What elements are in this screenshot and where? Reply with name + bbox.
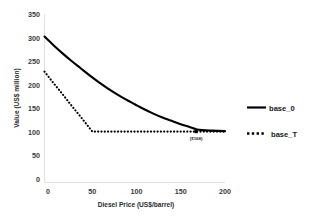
y-tick-label: 150 [28,104,40,113]
legend-label-base_T: base_T [271,130,298,139]
x-axis-title: Diesel Price (US$/barrel) [98,201,175,209]
x-tick-label: 50 [88,187,96,196]
y-tick-label: 0 [36,175,40,184]
y-tick-label: 350 [28,10,40,19]
y-tick-label: 250 [28,57,40,66]
x-tick-label: 0 [46,187,50,196]
x-tick-label: 150 [175,187,187,196]
y-tick-label: 100 [28,128,40,137]
chart-background [0,0,312,218]
y-tick-label: 200 [28,81,40,90]
legend-label-base_0: base_0 [269,104,295,113]
intersection-marker [195,130,198,133]
x-tick-label: 200 [219,187,231,196]
y-tick-label: 300 [28,34,40,43]
chart-container: 350 300 250 200 150 100 50 0 0 50 100 15… [0,0,312,218]
line-chart: 350 300 250 200 150 100 50 0 0 50 100 15… [0,0,312,218]
x-tick-label: 100 [131,187,143,196]
intersection-annotation: ($168) [190,136,203,141]
y-axis-title: Value (US$ million) [13,68,21,127]
y-tick-label: 50 [32,151,40,160]
